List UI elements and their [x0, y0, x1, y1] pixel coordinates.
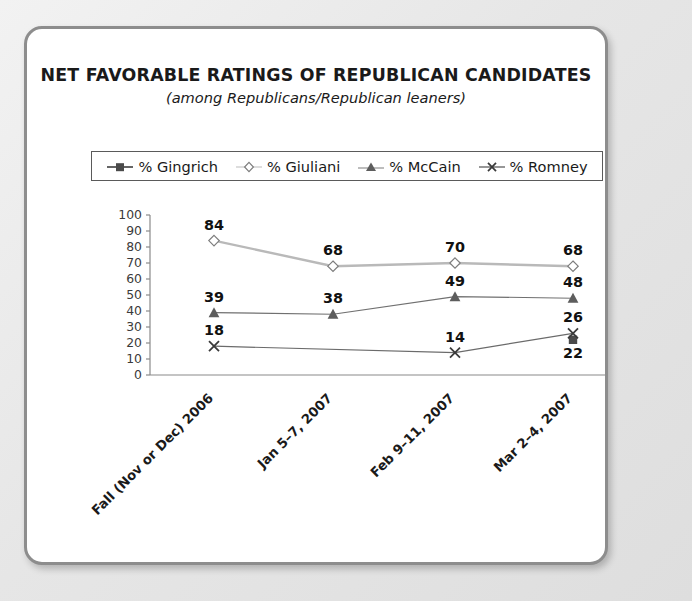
data-point-marker: [328, 261, 338, 271]
x-axis-category-label: Mar 2–4, 2007: [491, 391, 575, 475]
data-point-label: 38: [323, 290, 343, 306]
chart-card: NET FAVORABLE RATINGS OF REPUBLICAN CAND…: [24, 26, 608, 565]
y-axis-tick-label: 40: [126, 303, 142, 318]
y-axis: 0102030405060708090100: [118, 207, 150, 382]
data-point-marker: [209, 235, 219, 245]
data-point-label: 18: [204, 322, 224, 338]
y-axis-tick-label: 10: [126, 351, 142, 366]
y-axis-tick-label: 80: [126, 239, 142, 254]
data-point-marker: [568, 261, 578, 271]
y-axis-tick-label: 90: [126, 223, 142, 238]
data-point-label: 68: [323, 242, 343, 258]
data-point-marker: [450, 258, 460, 268]
series-line: [214, 241, 573, 267]
y-axis-tick-label: 70: [126, 255, 142, 270]
data-point-label: 39: [204, 289, 224, 305]
y-axis-tick-label: 0: [134, 367, 142, 382]
data-labels-group: 228468706839384948181426: [204, 217, 583, 361]
line-chart-plot: 0102030405060708090100 22846870683938494…: [27, 29, 605, 562]
x-axis-category-label: Jan 5–7, 2007: [254, 391, 335, 472]
series-line: [214, 333, 573, 352]
category-labels-group: Fall (Nov or Dec) 2006Jan 5–7, 2007Feb 9…: [89, 391, 575, 518]
x-axis-category-label: Fall (Nov or Dec) 2006: [89, 391, 216, 518]
data-point-label: 70: [445, 239, 465, 255]
y-axis-tick-label: 30: [126, 319, 142, 334]
series-line: [214, 297, 573, 315]
data-point-label: 49: [445, 273, 465, 289]
data-point-label: 48: [563, 274, 583, 290]
data-series-group: [209, 235, 579, 357]
data-point-label: 84: [204, 217, 224, 233]
y-axis-tick-label: 100: [118, 207, 142, 222]
y-axis-tick-label: 60: [126, 271, 142, 286]
y-axis-tick-label: 20: [126, 335, 142, 350]
x-axis-category-label: Feb 9–11, 2007: [367, 391, 457, 481]
data-point-label: 26: [563, 309, 583, 325]
data-point-label: 22: [563, 345, 583, 361]
data-point-label: 14: [445, 329, 465, 345]
y-axis-tick-label: 50: [126, 287, 142, 302]
data-point-label: 68: [563, 242, 583, 258]
